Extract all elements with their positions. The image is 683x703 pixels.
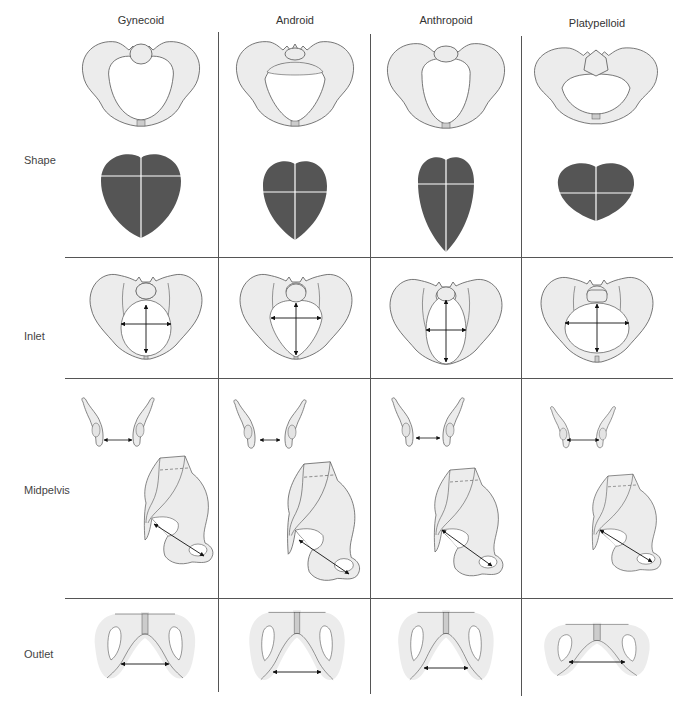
android-ischial-spines bbox=[234, 400, 306, 448]
anthropoid-hip-side-view bbox=[434, 468, 503, 576]
anthropoid-shape-silhouette bbox=[418, 157, 474, 254]
gynecoid-inlet bbox=[90, 274, 202, 359]
android-inlet bbox=[240, 274, 352, 359]
pelvis-illustrations bbox=[0, 0, 683, 703]
anthropoid-pelvis-top-view bbox=[387, 44, 504, 128]
gynecoid-hip-side-view bbox=[144, 456, 213, 564]
anthropoid-inlet bbox=[390, 279, 502, 364]
gynecoid-outlet bbox=[95, 612, 196, 678]
android-shape-silhouette bbox=[263, 161, 327, 242]
platypelloid-shape-silhouette bbox=[558, 163, 634, 223]
gynecoid-shape-silhouette bbox=[101, 154, 181, 240]
android-hip-side-view bbox=[288, 462, 360, 581]
platypelloid-hip-side-view bbox=[592, 474, 661, 571]
anthropoid-ischial-spines bbox=[392, 398, 464, 446]
gynecoid-ischial-spines bbox=[82, 398, 154, 446]
platypelloid-outlet bbox=[544, 623, 650, 676]
android-outlet bbox=[249, 610, 344, 680]
platypelloid-ischial-spines bbox=[551, 407, 616, 448]
anthropoid-outlet bbox=[398, 610, 493, 680]
platypelloid-inlet bbox=[541, 277, 653, 362]
android-pelvis-top-view bbox=[236, 42, 353, 126]
platypelloid-pelvis-top-view bbox=[534, 48, 657, 124]
gynecoid-pelvis-top-view bbox=[82, 42, 199, 126]
